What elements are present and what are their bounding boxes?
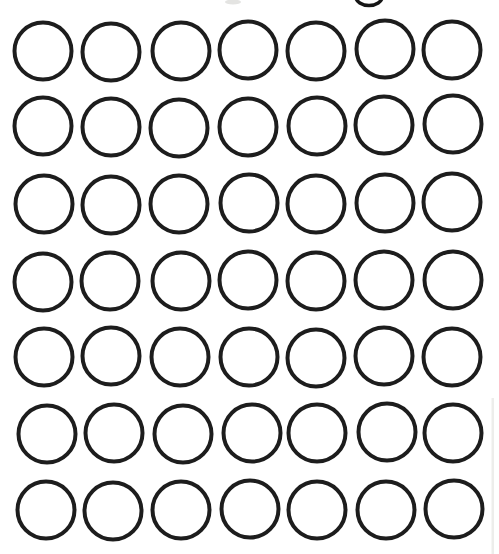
counting-circle — [83, 177, 140, 234]
counting-circle — [15, 23, 72, 80]
counting-circle — [16, 176, 73, 233]
counting-circle — [222, 481, 279, 538]
counting-circle — [153, 23, 210, 80]
counting-circle — [357, 21, 414, 78]
counting-circle — [425, 96, 482, 153]
counting-circle — [359, 404, 416, 461]
counting-circle — [288, 176, 345, 233]
counting-circle — [152, 329, 209, 386]
counting-circle — [220, 99, 277, 156]
counting-circle — [85, 483, 142, 540]
counting-circle — [151, 100, 208, 157]
scan-streak-artifact — [492, 398, 495, 554]
counting-circle — [356, 97, 413, 154]
counting-circle — [220, 22, 277, 79]
counting-circle — [16, 329, 73, 386]
counting-circle — [424, 22, 481, 79]
scan-smudge-artifact — [225, 0, 241, 5]
counting-circle — [288, 330, 345, 387]
counting-circle — [155, 406, 212, 463]
counting-circle — [220, 252, 277, 309]
counting-circle — [15, 98, 72, 155]
counting-circle — [424, 174, 481, 231]
counting-circle — [425, 405, 482, 462]
counting-circle — [153, 253, 210, 310]
counting-circle — [356, 252, 413, 309]
counting-circle — [86, 405, 143, 462]
counting-circle — [289, 98, 346, 155]
counting-circle — [425, 252, 482, 309]
counting-circle — [426, 481, 483, 538]
counting-circle — [224, 405, 281, 462]
counting-circle — [288, 23, 345, 80]
counting-circle — [357, 175, 414, 232]
counting-circle — [358, 482, 415, 539]
counting-circle — [18, 482, 75, 539]
circle-grid-svg — [0, 0, 499, 554]
counting-circle — [221, 175, 278, 232]
counting-circle — [289, 482, 346, 539]
counting-circle — [19, 406, 76, 463]
counting-circle — [83, 328, 140, 385]
counting-circle — [289, 405, 346, 462]
counting-circle — [15, 254, 72, 311]
counting-circle — [356, 328, 413, 385]
counting-circle — [82, 253, 139, 310]
counting-circle — [83, 99, 140, 156]
counting-circle — [424, 329, 481, 386]
cropped-heading-descender-icon — [356, 0, 382, 6]
counting-circle — [153, 482, 210, 539]
counting-circle — [83, 24, 140, 81]
worksheet-page — [0, 0, 499, 554]
counting-circle — [288, 253, 345, 310]
counting-circle — [151, 176, 208, 233]
counting-circle — [221, 329, 278, 386]
